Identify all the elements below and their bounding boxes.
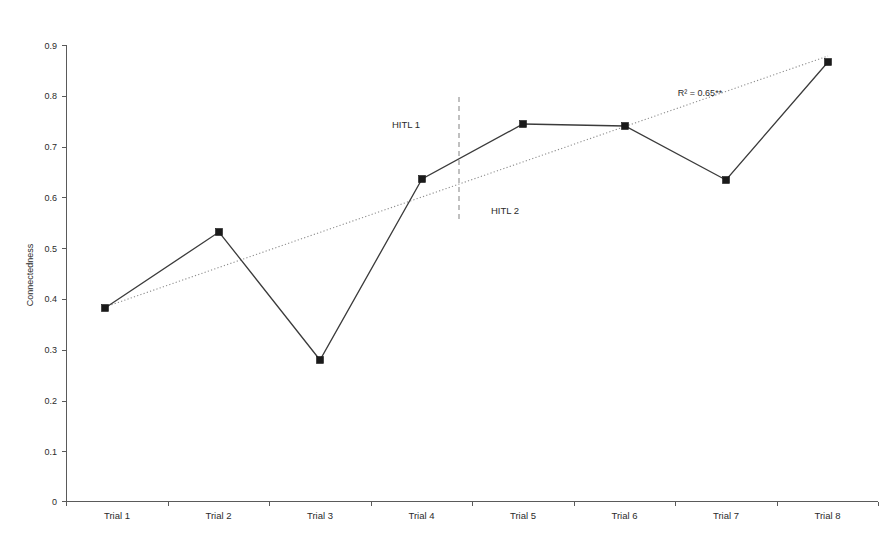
y-tick-label: 0.5 — [44, 244, 57, 254]
connectedness-line-chart: 0.9 0.8 0.7 0.6 0.5 0.4 0.3 0.2 0.1 0 Co… — [0, 0, 895, 545]
hitl-1-annotation: HITL 1 — [392, 119, 420, 130]
y-tick-label: 0.4 — [44, 294, 57, 304]
x-tick-label-trial-2: Trial 2 — [205, 510, 231, 521]
y-tick-label: 0.2 — [44, 396, 57, 406]
data-point-trial-7[interactable] — [723, 177, 730, 184]
x-tick-label-trial-5: Trial 5 — [510, 510, 536, 521]
chart-container: 0.9 0.8 0.7 0.6 0.5 0.4 0.3 0.2 0.1 0 Co… — [0, 0, 895, 545]
y-axis-title: Connectedness — [25, 243, 35, 306]
y-tick-label: 0.1 — [44, 447, 57, 457]
r-squared-annotation: R² = 0.65** — [678, 88, 723, 98]
x-tick-label-trial-3: Trial 3 — [307, 510, 333, 521]
x-tick-label-trial-6: Trial 6 — [611, 510, 637, 521]
y-tick-label: 0.7 — [44, 142, 57, 152]
x-tick-label-trial-8: Trial 8 — [814, 510, 840, 521]
x-tick-label-trial-4: Trial 4 — [408, 510, 434, 521]
y-tick-label: 0.8 — [44, 91, 57, 101]
x-tick-label-trial-1: Trial 1 — [104, 510, 130, 521]
data-point-trial-3[interactable] — [317, 357, 324, 364]
y-tick-label: 0.6 — [44, 193, 57, 203]
data-point-trial-4[interactable] — [419, 176, 426, 183]
hitl-2-annotation: HITL 2 — [491, 205, 519, 216]
data-point-trial-8[interactable] — [825, 59, 832, 66]
x-tick-label-trial-7: Trial 7 — [713, 510, 739, 521]
data-point-trial-1[interactable] — [102, 305, 109, 312]
y-tick-label: 0.9 — [44, 41, 57, 51]
data-point-trial-2[interactable] — [216, 229, 223, 236]
y-tick-label: 0 — [52, 497, 57, 507]
y-tick-label: 0.3 — [44, 345, 57, 355]
data-point-trial-5[interactable] — [520, 121, 527, 128]
chart-background — [0, 0, 895, 545]
data-point-trial-6[interactable] — [622, 123, 629, 130]
